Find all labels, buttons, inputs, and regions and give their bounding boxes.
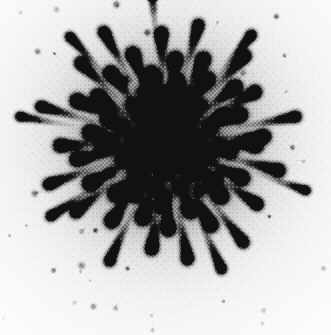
radial-burst-image: [0, 0, 331, 335]
figure-root: Radial burst pattern: [0, 0, 331, 335]
